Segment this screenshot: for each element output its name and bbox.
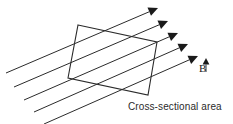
physics-figure: B Cross-sectional area — [0, 0, 233, 124]
field-line-2 — [14, 21, 168, 87]
cross-sectional-area-loop — [68, 25, 157, 95]
cross-sectional-area-caption: Cross-sectional area — [128, 101, 222, 113]
field-vector-label: B — [199, 63, 206, 74]
field-line-5 — [44, 56, 198, 124]
field-line-3 — [24, 33, 178, 100]
field-line-1 — [6, 8, 158, 73]
